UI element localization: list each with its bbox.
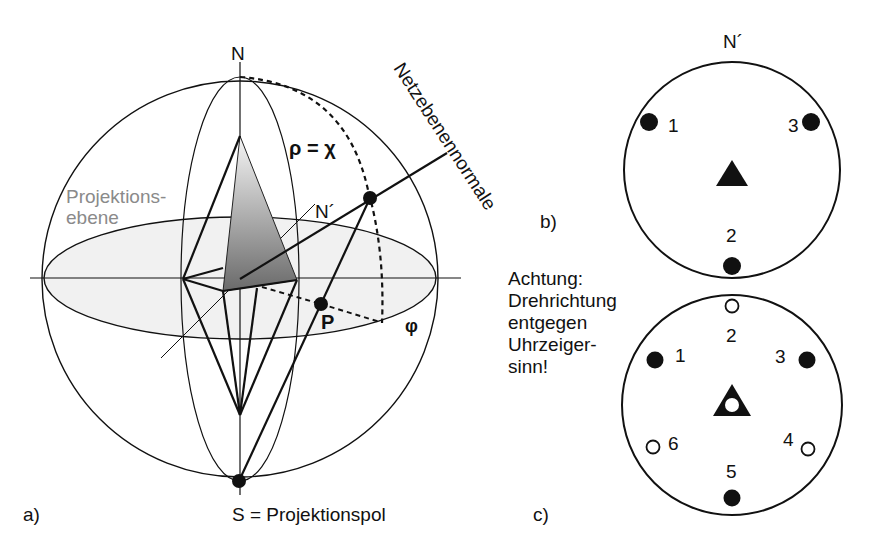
center-open-circle xyxy=(725,398,739,412)
pole-c-5-label: 5 xyxy=(726,461,737,482)
pole-c-1-label: 1 xyxy=(675,345,686,366)
phi-label: φ xyxy=(405,316,418,336)
panel-c-label: c) xyxy=(533,504,549,525)
pole-b-2 xyxy=(723,257,741,275)
pole-c-3 xyxy=(799,352,816,369)
projected-north-label: N´ xyxy=(315,201,335,222)
note-line: Achtung: xyxy=(508,268,628,290)
note-line: Drehrichtung xyxy=(508,290,628,312)
point-p xyxy=(314,297,328,311)
normal-intersection-point xyxy=(363,191,377,205)
plane-label-line1: Projektions- xyxy=(66,186,166,207)
stereographic-projection-diagram: N N´ ρ = χ φ P Projektions- ebene Netzeb… xyxy=(0,0,874,552)
plane-normal-label: Netzebenennormale xyxy=(390,59,501,214)
center-triangle-filled xyxy=(716,160,748,186)
note-line: Uhrzeiger- xyxy=(508,334,628,356)
pole-c-2-label: 2 xyxy=(726,325,737,346)
note-line: sinn! xyxy=(508,356,628,378)
pole-c-1 xyxy=(647,352,664,369)
pole-c-3-label: 3 xyxy=(775,346,786,367)
rho-chi-label: ρ = χ xyxy=(289,137,336,159)
pole-c-5 xyxy=(724,490,741,507)
plane-label-line2: ebene xyxy=(66,207,119,228)
point-p-label: P xyxy=(321,311,334,333)
projection-pole-label: S = Projektionspol xyxy=(232,504,386,525)
panel-b-north-label: N´ xyxy=(723,31,743,52)
pole-c-6-label: 6 xyxy=(668,433,679,454)
panel-a-label: a) xyxy=(23,504,40,525)
pole-b-2-label: 2 xyxy=(726,225,737,246)
pole-b-3 xyxy=(802,113,820,131)
rotation-note: Achtung: Drehrichtung entgegen Uhrzeiger… xyxy=(508,268,628,378)
panel-a-sphere xyxy=(30,62,461,495)
pole-c-6 xyxy=(647,441,660,454)
north-label: N xyxy=(231,43,245,64)
pole-b-1 xyxy=(640,113,658,131)
pole-b-1-label: 1 xyxy=(668,115,679,136)
projection-pole-point xyxy=(232,474,246,488)
note-line: entgegen xyxy=(508,312,628,334)
pole-c-4 xyxy=(802,443,815,456)
panel-b-label: b) xyxy=(540,211,557,232)
pole-c-2 xyxy=(726,300,739,313)
pole-b-3-label: 3 xyxy=(788,115,799,136)
pole-c-4-label: 4 xyxy=(783,429,794,450)
